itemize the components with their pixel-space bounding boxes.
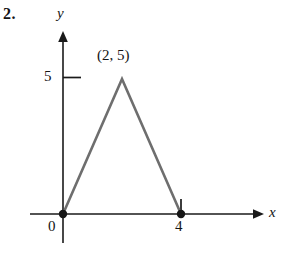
y-axis-arrowhead xyxy=(58,31,68,42)
figure-container: 2. y x 5 0 4 (2, 5) xyxy=(0,0,289,260)
x-axis-label: x xyxy=(269,205,276,220)
origin-label: 0 xyxy=(48,219,56,234)
x-tick-label-4: 4 xyxy=(175,219,183,234)
point-x-four xyxy=(177,210,185,218)
vertex-point-label: (2, 5) xyxy=(97,48,130,63)
y-tick-label-5: 5 xyxy=(44,69,52,84)
y-axis-label: y xyxy=(57,6,64,21)
problem-number: 2. xyxy=(3,6,16,22)
x-axis-arrowhead xyxy=(253,209,264,219)
point-origin xyxy=(59,210,67,218)
curve-piecewise-linear xyxy=(63,79,181,214)
coordinate-plot xyxy=(0,0,289,260)
